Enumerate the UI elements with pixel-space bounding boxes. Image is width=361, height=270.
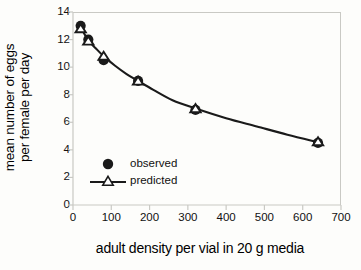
legend-marker-open-triangle-icon bbox=[88, 173, 128, 189]
legend-label-observed: observed bbox=[130, 157, 177, 170]
data-point-predicted bbox=[313, 137, 323, 145]
legend-label-predicted: predicted bbox=[130, 174, 177, 187]
x-axis-tick-labels: 0100200300400500600700 bbox=[73, 212, 341, 228]
x-tick-label: 400 bbox=[206, 212, 246, 224]
legend-item-predicted: predicted bbox=[88, 173, 188, 189]
y-tick-label: 4 bbox=[48, 144, 70, 156]
y-axis-tick-labels: 02468101214 bbox=[46, 12, 70, 205]
data-point-predicted bbox=[190, 104, 200, 112]
y-tick-label: 8 bbox=[48, 89, 70, 101]
y-tick-label: 6 bbox=[48, 116, 70, 128]
y-tick-label: 0 bbox=[48, 199, 70, 211]
legend-item-observed: observed bbox=[88, 156, 188, 172]
y-axis-title: mean number of eggs per female per day bbox=[0, 0, 34, 215]
x-tick-label: 700 bbox=[321, 212, 361, 224]
chart-legend: observed predicted bbox=[88, 156, 188, 190]
x-tick-label: 200 bbox=[130, 212, 170, 224]
x-axis-title: adult density per vial in 20 g media bbox=[45, 240, 355, 256]
x-tick-label: 100 bbox=[91, 212, 131, 224]
x-tick-label: 0 bbox=[53, 212, 93, 224]
y-axis-title-line1: mean number of eggs bbox=[2, 44, 18, 172]
x-tick-label: 600 bbox=[283, 212, 323, 224]
y-tick-label: 14 bbox=[48, 6, 70, 18]
x-tick-label: 500 bbox=[244, 212, 284, 224]
y-tick-label: 12 bbox=[48, 34, 70, 46]
y-tick-label: 10 bbox=[48, 61, 70, 73]
y-axis-title-line2: per female per day bbox=[17, 44, 33, 172]
legend-marker-filled-circle-icon bbox=[88, 156, 128, 172]
y-tick-label: 2 bbox=[48, 171, 70, 183]
chart-figure: mean number of eggs per female per day 0… bbox=[0, 0, 361, 270]
x-tick-label: 300 bbox=[168, 212, 208, 224]
